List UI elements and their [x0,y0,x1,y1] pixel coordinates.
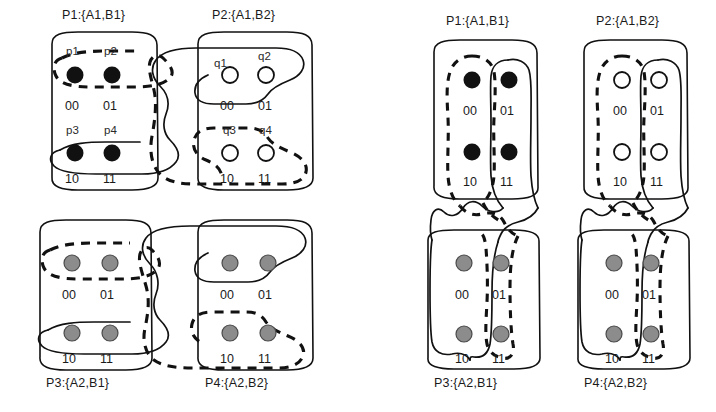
cell-label-right-p4-00: 00 [605,288,619,302]
box-outline-left-p3 [40,220,152,370]
cell-label-left-p3-11: 11 [100,352,113,366]
cell-label-right-p4-10: 10 [605,352,619,366]
cell-label-left-p2-00: 00 [220,99,234,113]
cell-label-right-p3-11: 11 [492,352,505,366]
cell-label-right-p2-00: 00 [613,104,627,118]
node-left-p3-00 [64,255,80,271]
node-left-p1-01 [104,67,121,84]
cell-label-left-p1-01: 01 [103,99,117,113]
node-tag-q1: q1 [214,57,227,69]
cell-label-right-p2-01: 01 [650,104,664,118]
contour-solid-right-weave-c [580,202,653,240]
cell-label-right-p1-00: 00 [463,104,477,118]
node-right-p2-01 [651,72,667,88]
node-tag-p4: p4 [104,124,117,136]
node-left-p3-01 [102,255,118,271]
node-left-p4-01 [260,255,276,271]
node-tag-p2: p2 [104,45,117,57]
node-left-p1-10 [67,145,84,162]
contour-solid-right-weave-a [430,202,503,240]
cell-label-left-p1-11: 11 [103,172,116,186]
node-right-p1-10 [464,144,481,161]
node-right-p4-11 [643,326,659,342]
cell-label-left-p4-10: 10 [220,352,234,366]
caption-left-p1: P1:{A1,B1} [62,8,125,22]
cell-label-right-p4-01: 01 [642,288,656,302]
diagram-vector-layer [0,0,716,412]
partition-grouping-diagram: P1:{A1,B1} P2:{A1,B2} P3:{A2,B1} P4:{A2,… [0,0,716,412]
node-right-p2-00 [614,72,630,88]
node-right-p3-11 [493,326,509,342]
node-left-p3-11 [102,325,118,341]
node-right-p3-10 [456,326,472,342]
node-left-p4-11 [260,325,276,341]
cell-label-left-p4-00: 00 [220,288,234,302]
node-left-p2-00 [222,67,238,83]
cell-label-left-p2-10: 10 [220,172,234,186]
node-right-p4-10 [606,326,622,342]
node-right-p1-01 [501,72,518,89]
node-left-p2-01 [258,67,274,83]
cell-label-right-p2-11: 11 [650,175,663,189]
node-right-p3-00 [456,255,472,271]
box-outline-left-p4 [198,220,313,370]
node-left-p4-00 [222,255,238,271]
cell-label-right-p1-10: 10 [463,175,477,189]
cell-label-right-p3-10: 10 [455,352,469,366]
cell-label-right-p3-01: 01 [492,288,506,302]
box-outline-right-p4 [578,230,690,369]
cell-label-right-p4-11: 11 [642,352,655,366]
cell-label-left-p2-11: 11 [258,172,271,186]
caption-right-p3: P3:{A2,B1} [434,376,497,390]
caption-right-p4: P4:{A2,B2} [584,376,647,390]
caption-left-p4: P4:{A2,B2} [205,376,268,390]
node-tag-p3: p3 [66,124,79,136]
node-right-p2-11 [651,144,667,160]
node-right-p4-01 [643,255,659,271]
cell-label-left-p2-01: 01 [258,99,272,113]
node-right-p3-01 [493,255,509,271]
cell-label-left-p3-10: 10 [62,352,76,366]
cell-label-left-p3-00: 00 [62,288,76,302]
node-right-p1-11 [501,144,518,161]
cell-label-right-p2-10: 10 [613,175,627,189]
left-panel [39,32,313,370]
node-left-p4-10 [222,325,238,341]
cell-label-right-p3-00: 00 [455,288,469,302]
node-tag-q2: q2 [258,50,271,62]
node-right-p1-00 [464,72,481,89]
cell-label-left-p3-01: 01 [100,288,114,302]
node-tag-q3: q3 [223,124,236,136]
caption-left-p3: P3:{A2,B1} [46,376,109,390]
box-outline-right-p3 [428,230,540,369]
node-left-p3-10 [64,325,80,341]
cell-label-left-p1-00: 00 [65,99,79,113]
right-panel [428,40,690,369]
caption-right-p2: P2:{A1,B2} [596,14,659,28]
node-tag-q4: q4 [259,124,272,136]
contour-dashed-left-c-close [50,243,130,250]
cell-label-left-p1-10: 10 [65,172,79,186]
node-right-p4-00 [606,255,622,271]
cell-label-left-p4-11: 11 [258,352,271,366]
box-outline-left-p2 [198,32,313,190]
caption-left-p2: P2:{A1,B2} [212,8,275,22]
node-tag-p1: p1 [66,45,79,57]
node-right-p2-10 [614,144,630,160]
node-left-p2-10 [222,145,238,161]
cell-label-right-p1-11: 11 [500,175,513,189]
contour-solid-left-d-close [48,322,130,330]
node-left-p2-11 [258,145,274,161]
cell-label-right-p1-01: 01 [500,104,514,118]
node-left-p1-00 [67,67,84,84]
cell-label-left-p4-01: 01 [258,288,272,302]
node-left-p1-11 [104,145,121,162]
caption-right-p1: P1:{A1,B1} [446,14,509,28]
